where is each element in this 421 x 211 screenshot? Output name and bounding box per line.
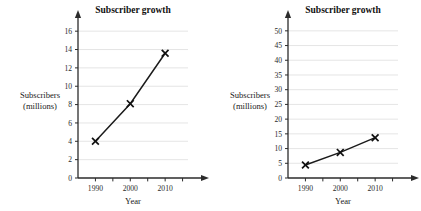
x-tick-label: 2010 [158, 184, 173, 193]
data-point-marker [337, 149, 344, 156]
x-tick-label: 1990 [298, 184, 313, 193]
y-tick-label: 10 [64, 82, 72, 91]
y-axis-label-line: Subscribers [20, 90, 61, 100]
x-tick-label: 2000 [123, 184, 138, 193]
y-tick-label: 45 [274, 41, 282, 50]
two-chart-figure: 0246810121416199020002010Subscriber grow… [0, 0, 421, 211]
chart-title: Subscriber growth [305, 5, 381, 15]
y-tick-label: 10 [274, 144, 282, 153]
y-tick-label: 30 [274, 85, 282, 94]
x-axis-arrowhead [201, 175, 209, 181]
x-tick-label: 1990 [88, 184, 103, 193]
y-tick-label: 2 [68, 155, 72, 164]
chart-left-canvas: 0246810121416199020002010Subscriber grow… [0, 0, 211, 211]
chart-left: 0246810121416199020002010Subscriber grow… [0, 0, 211, 211]
y-axis-arrowhead [285, 10, 291, 18]
y-tick-label: 12 [64, 64, 72, 73]
y-tick-label: 16 [64, 27, 72, 36]
y-tick-label: 14 [64, 45, 72, 54]
y-axis-label-line: (millions) [233, 101, 267, 111]
y-tick-label: 6 [68, 119, 72, 128]
y-tick-label: 0 [278, 174, 282, 183]
y-tick-label: 4 [68, 137, 72, 146]
chart-right-canvas: 05101520253035404550199020002010Subscrib… [210, 0, 421, 211]
y-tick-label: 8 [68, 100, 72, 109]
y-tick-label: 15 [274, 130, 282, 139]
x-tick-label: 2000 [333, 184, 348, 193]
y-axis-arrowhead [75, 10, 81, 18]
data-point-marker [127, 100, 134, 107]
y-tick-label: 0 [68, 174, 72, 183]
data-point-marker [302, 162, 309, 169]
y-tick-label: 50 [274, 27, 282, 36]
y-tick-label: 20 [274, 115, 282, 124]
y-tick-label: 5 [278, 159, 282, 168]
y-axis-label-line: Subscribers [230, 90, 271, 100]
y-tick-label: 35 [274, 71, 282, 80]
y-tick-label: 40 [274, 56, 282, 65]
x-axis-label: Year [335, 196, 351, 206]
x-tick-label: 2010 [368, 184, 383, 193]
y-axis-label-line: (millions) [23, 101, 57, 111]
data-point-marker [372, 134, 379, 141]
y-tick-label: 25 [274, 100, 282, 109]
chart-right: 05101520253035404550199020002010Subscrib… [210, 0, 421, 211]
chart-title: Subscriber growth [95, 5, 171, 15]
x-axis-arrowhead [411, 175, 419, 181]
x-axis-label: Year [125, 196, 141, 206]
data-series-line [95, 53, 165, 141]
data-point-marker [162, 50, 169, 57]
